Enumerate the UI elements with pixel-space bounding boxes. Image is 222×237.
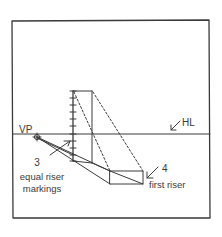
vp-label: VP bbox=[19, 124, 33, 135]
step-3-number: 3 bbox=[34, 157, 40, 168]
arrow-icon bbox=[147, 167, 158, 178]
hl-label: HL bbox=[182, 117, 195, 128]
arrow-icon bbox=[50, 141, 70, 155]
stair-perspective-diagram: VP HL 3 equal riser markings 4 first ris… bbox=[0, 0, 222, 237]
step-4-label: first riser bbox=[149, 179, 185, 190]
step-3-label-line2: markings bbox=[23, 183, 62, 194]
step-3-label-line1: equal riser bbox=[20, 171, 64, 182]
riser-marked-vertical bbox=[70, 91, 76, 161]
arrow-icon bbox=[171, 121, 180, 130]
first-riser-box bbox=[92, 163, 143, 184]
step-4-number: 4 bbox=[162, 163, 168, 174]
